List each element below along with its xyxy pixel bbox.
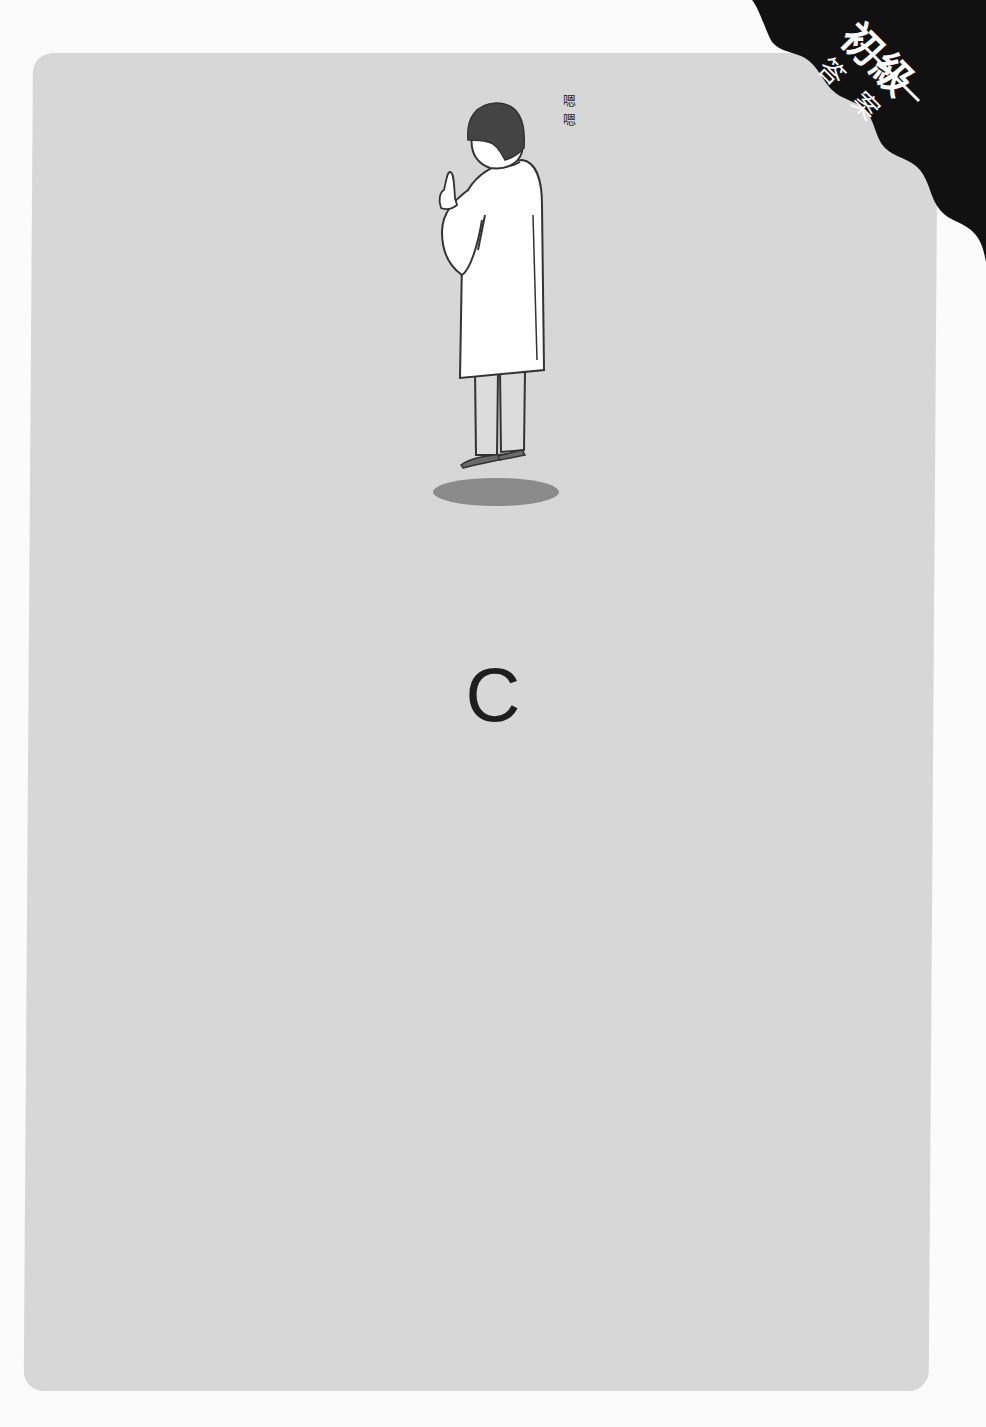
thinking-person-illustration [420, 85, 600, 515]
page: 初級 答案 嗯嗯 C [0, 0, 986, 1427]
thought-bubble-text: 嗯嗯 [552, 94, 580, 132]
answer-letter: C [0, 650, 986, 740]
floor-shadow-icon [433, 478, 559, 506]
